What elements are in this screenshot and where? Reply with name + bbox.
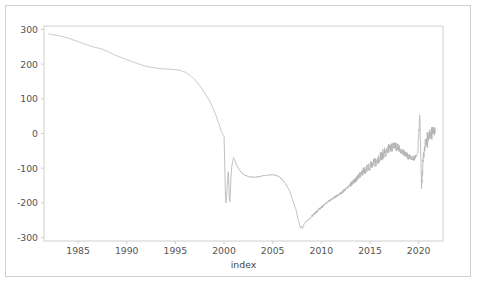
x-tick-label: 1995 xyxy=(164,245,188,256)
x-tick-label: 2020 xyxy=(407,245,431,256)
x-tick-label: 2005 xyxy=(261,245,285,256)
y-tick-label: 200 xyxy=(20,59,38,70)
x-tick-label: 2015 xyxy=(358,245,382,256)
series-group xyxy=(49,34,435,229)
x-axis-title: index xyxy=(231,259,257,270)
y-tick-label: -300 xyxy=(17,232,38,243)
y-axis-ticks: 3002001000-100-200-300 xyxy=(17,24,44,243)
x-tick-label: 1990 xyxy=(115,245,139,256)
series-line-index xyxy=(49,34,435,229)
y-tick-label: 300 xyxy=(20,24,38,35)
x-tick-label: 1985 xyxy=(66,245,90,256)
figure-root: 19851990199520002005201020152020 3002001… xyxy=(0,0,477,283)
x-tick-label: 2000 xyxy=(212,245,236,256)
y-tick-label: -100 xyxy=(17,163,38,174)
y-tick-label: -200 xyxy=(17,197,38,208)
x-axis-ticks: 19851990199520002005201020152020 xyxy=(66,241,430,256)
axis-spines xyxy=(44,26,443,241)
y-tick-label: 100 xyxy=(20,93,38,104)
y-tick-label: 0 xyxy=(32,128,38,139)
line-chart: 19851990199520002005201020152020 3002001… xyxy=(0,0,477,283)
x-tick-label: 2010 xyxy=(310,245,334,256)
